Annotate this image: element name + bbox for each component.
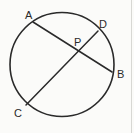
point-label-b: B [117,69,124,80]
point-label-c: C [14,108,22,119]
point-label-a: A [25,10,32,21]
geometry-figure: A D P B C [0,0,134,133]
point-label-d: D [99,19,107,30]
chord-cd-line [26,31,98,105]
point-label-p: P [74,37,81,48]
right-margin-rule [131,0,132,133]
